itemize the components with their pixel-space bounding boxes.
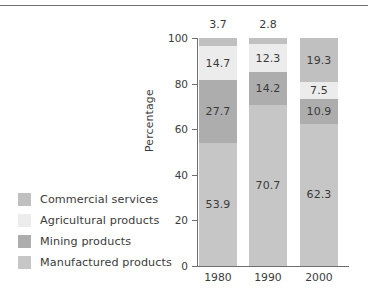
- legend-item: Manufactured products: [18, 252, 183, 273]
- top-divider-rule: [0, 5, 368, 6]
- bar-segment[interactable]: 14.2: [249, 72, 287, 104]
- x-axis-line: [197, 266, 349, 267]
- stacked-bar-1980[interactable]: 3.714.727.753.9: [199, 38, 237, 266]
- chart-legend: Commercial services Agricultural product…: [18, 189, 183, 273]
- legend-item: Commercial services: [18, 189, 183, 210]
- y-tick-label: 0: [181, 260, 188, 272]
- legend-swatch-manufactured-products: [18, 256, 31, 269]
- legend-label-mining-products: Mining products: [40, 235, 131, 248]
- bar-segment[interactable]: 62.3: [300, 124, 338, 266]
- legend-swatch-agricultural-products: [18, 214, 31, 227]
- bar-segment-value: 12.3: [256, 53, 281, 64]
- y-tick-label: 80: [175, 78, 188, 90]
- bar-segment[interactable]: 3.7: [199, 38, 237, 46]
- bar-segment[interactable]: 70.7: [249, 105, 287, 266]
- bar-segment-value: 14.2: [256, 83, 281, 94]
- bar-segment[interactable]: 53.9: [199, 143, 237, 266]
- bar-segment[interactable]: 7.5: [300, 82, 338, 99]
- bar-segment[interactable]: 27.7: [199, 80, 237, 143]
- y-tick-label: 100: [168, 32, 188, 44]
- bar-segment-value: 27.7: [206, 106, 231, 117]
- bar-segment-value: 62.3: [307, 189, 332, 200]
- legend-item: Mining products: [18, 231, 183, 252]
- y-tick-label: 40: [175, 169, 188, 181]
- legend-swatch-mining-products: [18, 235, 31, 248]
- bar-segment[interactable]: 14.7: [199, 46, 237, 80]
- bar-segment[interactable]: 12.3: [249, 44, 287, 72]
- y-tick-label: 20: [175, 214, 188, 226]
- y-tick-label: 60: [175, 123, 188, 135]
- bar-segment-value: 70.7: [256, 180, 281, 191]
- bar-segment-value: 7.5: [310, 85, 328, 96]
- bar-segment[interactable]: 19.3: [300, 38, 338, 82]
- bar-segment[interactable]: 10.9: [300, 99, 338, 124]
- chart-plot-area: 3.714.727.753.92.812.314.270.719.37.510.…: [197, 38, 345, 266]
- bar-outside-value: 2.8: [238, 18, 298, 31]
- y-tick-mark: [192, 266, 197, 267]
- bar-segment-value: 14.7: [206, 58, 231, 69]
- legend-swatch-commercial-services: [18, 193, 31, 206]
- bar-segment-value: 10.9: [307, 106, 332, 117]
- bar-segment-value: 19.3: [307, 55, 332, 66]
- x-tick-label: 2000: [289, 271, 349, 284]
- bar-segment-value: 53.9: [206, 199, 231, 210]
- y-axis-title: Percentage: [143, 89, 156, 152]
- stacked-bar-1990[interactable]: 2.812.314.270.7: [249, 38, 287, 266]
- legend-label-agricultural-products: Agricultural products: [40, 214, 159, 227]
- legend-label-commercial-services: Commercial services: [40, 193, 158, 206]
- legend-item: Agricultural products: [18, 210, 183, 231]
- stacked-bar-2000[interactable]: 19.37.510.962.3: [300, 38, 338, 266]
- legend-label-manufactured-products: Manufactured products: [40, 256, 172, 269]
